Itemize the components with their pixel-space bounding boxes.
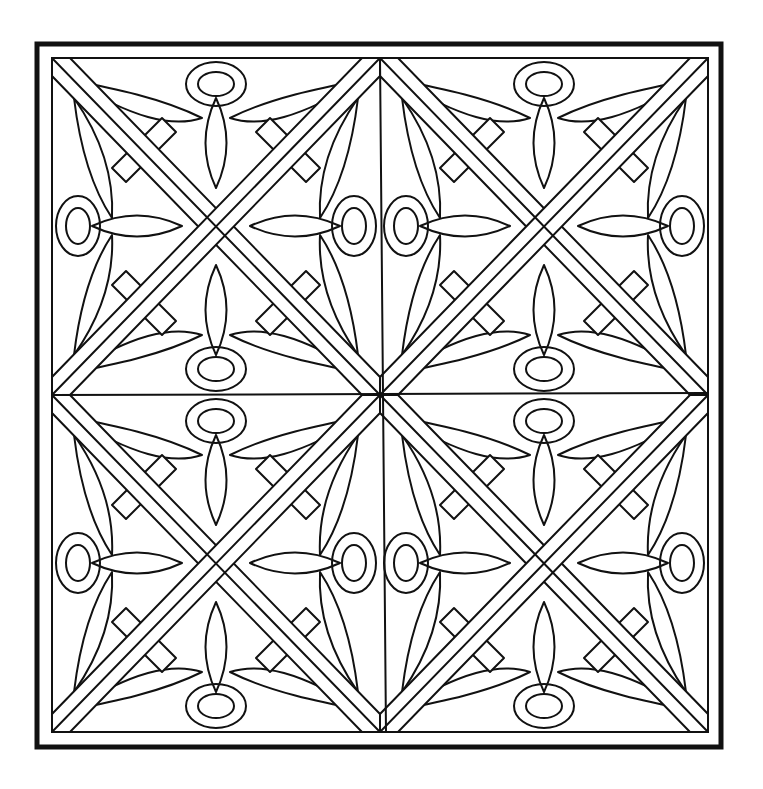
celtic-knot-artwork [0,0,763,789]
knot-tile-bottom-right [380,395,708,732]
knot-tile-top-right [380,58,708,395]
knot-tile-top-left [52,58,380,395]
knot-tile-bottom-left [52,395,380,732]
